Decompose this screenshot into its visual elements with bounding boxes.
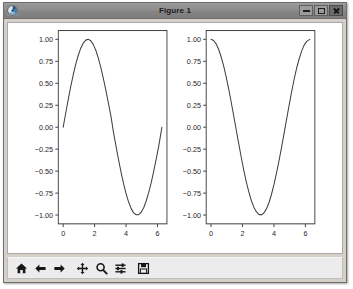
navigation-toolbar [7, 257, 343, 279]
forward-button[interactable] [50, 259, 69, 278]
data-line-cos(x) [211, 39, 310, 215]
y-tick-label: −0.75 [35, 189, 53, 198]
minimize-icon [303, 10, 310, 12]
figure-canvas-container[interactable]: −1.00−0.75−0.50−0.250.000.250.500.751.00… [7, 22, 343, 254]
figure-svg: −1.00−0.75−0.50−0.250.000.250.500.751.00… [8, 23, 342, 253]
matplotlib-logo-icon [7, 5, 18, 16]
home-icon [15, 262, 28, 275]
axes-2[interactable]: −1.00−0.75−0.50−0.250.000.250.500.751.00… [183, 31, 315, 238]
pan-button[interactable] [73, 259, 92, 278]
y-tick-label: −0.50 [35, 167, 53, 176]
x-tick-label: 0 [61, 229, 65, 238]
y-tick-label: −1.00 [183, 211, 201, 220]
y-tick-label: −0.75 [183, 189, 201, 198]
x-tick-label: 4 [124, 229, 128, 238]
y-tick-label: −0.50 [183, 167, 201, 176]
close-icon [333, 7, 340, 14]
x-tick-label: 6 [303, 229, 307, 238]
y-tick-label: −0.25 [35, 145, 53, 154]
minimize-button[interactable] [299, 5, 313, 16]
y-tick-label: 1.00 [187, 35, 201, 44]
maximize-icon [318, 8, 325, 14]
x-tick-label: 0 [209, 229, 213, 238]
home-button[interactable] [12, 259, 31, 278]
y-tick-label: 1.00 [39, 35, 53, 44]
window-client-area: −1.00−0.75−0.50−0.250.000.250.500.751.00… [4, 19, 346, 282]
axes-1[interactable]: −1.00−0.75−0.50−0.250.000.250.500.751.00… [35, 31, 167, 238]
arrow-left-icon [34, 262, 47, 275]
configure-subplots-button[interactable] [111, 259, 130, 278]
y-tick-label: 0.75 [39, 57, 53, 66]
save-button[interactable] [134, 259, 153, 278]
y-tick-label: 0.00 [187, 123, 201, 132]
maximize-button[interactable] [314, 5, 328, 16]
data-line-sin(x) [63, 39, 162, 214]
x-tick-label: 2 [240, 229, 244, 238]
window-title: Figure 1 [4, 3, 346, 18]
magnifier-icon [95, 262, 108, 275]
window-titlebar[interactable]: Figure 1 [4, 3, 346, 19]
x-tick-label: 2 [93, 229, 97, 238]
x-tick-label: 4 [272, 229, 276, 238]
figure-canvas[interactable]: −1.00−0.75−0.50−0.250.000.250.500.751.00… [8, 23, 342, 253]
screen: Figure 1 −1.00−0.75−0.50−0.250.000.250.5… [0, 0, 353, 289]
move-icon [76, 262, 89, 275]
y-tick-label: 0.50 [187, 79, 201, 88]
y-tick-label: 0.00 [39, 123, 53, 132]
back-button[interactable] [31, 259, 50, 278]
y-tick-label: 0.50 [39, 79, 53, 88]
y-tick-label: −1.00 [35, 211, 53, 220]
y-tick-label: −0.25 [183, 145, 201, 154]
close-button[interactable] [329, 5, 343, 16]
sliders-icon [114, 262, 127, 275]
y-tick-label: 0.25 [39, 101, 53, 110]
floppy-disk-icon [137, 262, 150, 275]
y-tick-label: 0.25 [187, 101, 201, 110]
y-tick-label: 0.75 [187, 57, 201, 66]
zoom-button[interactable] [92, 259, 111, 278]
arrow-right-icon [53, 262, 66, 275]
x-tick-label: 6 [156, 229, 160, 238]
figure-window: Figure 1 −1.00−0.75−0.50−0.250.000.250.5… [3, 2, 347, 283]
window-controls [299, 5, 346, 16]
